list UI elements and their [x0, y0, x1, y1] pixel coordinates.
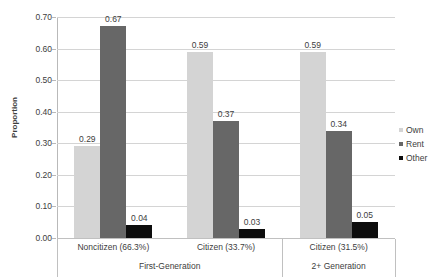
group-label: First-Generation	[139, 261, 200, 271]
bar-rent-1	[100, 26, 126, 238]
bar-value-label: 0.37	[218, 109, 235, 119]
bar-other-2	[239, 229, 265, 238]
group-labels-row: First-Generation2+ Generation	[57, 258, 395, 277]
y-axis-tick-mark	[52, 80, 56, 81]
legend-swatch-icon	[399, 156, 403, 160]
bar-value-label: 0.59	[192, 40, 209, 50]
category-labels-row: Noncitizen (66.3%)Citizen (33.7%)Citizen…	[57, 239, 395, 258]
y-axis-tick-label: 0.10	[6, 201, 52, 211]
y-axis-tick-label: 0.60	[6, 44, 52, 54]
bar-own-2	[187, 52, 213, 238]
chart-legend: OwnRentOther	[399, 124, 436, 166]
bar-own-1	[74, 146, 100, 238]
y-axis-tick-label: 0.20	[6, 170, 52, 180]
legend-label: Own	[406, 125, 423, 135]
category-axis: Noncitizen (66.3%)Citizen (33.7%)Citizen…	[57, 238, 395, 277]
y-axis-tick-label: 0.00	[6, 233, 52, 243]
y-axis-tick-mark	[52, 112, 56, 113]
y-axis-tick-mark	[52, 143, 56, 144]
plot-area: 0.290.670.040.590.370.030.590.340.05	[57, 17, 395, 238]
legend-swatch-icon	[399, 142, 403, 146]
group-separator	[57, 239, 58, 277]
group-separator	[282, 239, 283, 277]
bar-rent-2	[213, 121, 239, 238]
y-axis-line	[57, 17, 58, 238]
y-axis-tick-label: 0.30	[6, 138, 52, 148]
category-label: Noncitizen (66.3%)	[77, 242, 149, 252]
y-axis-tick-label: 0.50	[6, 75, 52, 85]
legend-label: Other	[406, 153, 427, 163]
y-axis-ticks: 0.000.100.200.300.400.500.600.70	[0, 17, 52, 238]
bar-value-label: 0.67	[105, 14, 122, 24]
y-axis-tick-mark	[52, 238, 56, 239]
bar-value-label: 0.59	[304, 40, 321, 50]
bar-value-label: 0.03	[244, 217, 261, 227]
y-axis-tick-label: 0.40	[6, 107, 52, 117]
bar-chart: Proportion 0.000.100.200.300.400.500.600…	[0, 0, 436, 277]
bar-rent-3	[326, 131, 352, 238]
y-axis-tick-mark	[52, 206, 56, 207]
y-axis-tick-mark	[52, 17, 56, 18]
bar-value-label: 0.04	[131, 213, 148, 223]
bar-value-label: 0.34	[330, 119, 347, 129]
bar-own-3	[300, 52, 326, 238]
y-axis-tick-mark	[52, 175, 56, 176]
legend-item-own[interactable]: Own	[399, 124, 436, 136]
legend-item-rent[interactable]: Rent	[399, 138, 436, 150]
bar-value-label: 0.29	[79, 134, 96, 144]
legend-label: Rent	[406, 139, 424, 149]
category-label: Citizen (31.5%)	[310, 242, 368, 252]
group-label: 2+ Generation	[312, 261, 366, 271]
category-axis-line	[57, 238, 395, 239]
bar-value-label: 0.05	[356, 210, 373, 220]
legend-swatch-icon	[399, 128, 403, 132]
y-axis-tick-mark	[52, 49, 56, 50]
category-label: Citizen (33.7%)	[197, 242, 255, 252]
group-separator	[395, 239, 396, 277]
bar-other-1	[126, 225, 152, 238]
legend-item-other[interactable]: Other	[399, 152, 436, 164]
bar-other-3	[352, 222, 378, 238]
y-axis-tick-label: 0.70	[6, 12, 52, 22]
